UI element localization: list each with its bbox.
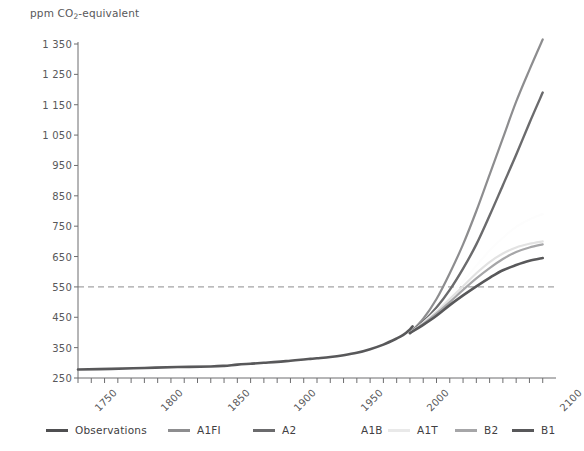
- legend-item-a1fi[interactable]: A1FI: [168, 424, 221, 436]
- legend-label: A1FI: [197, 424, 221, 436]
- legend-swatch-icon: [332, 429, 354, 432]
- legend-label: B2: [484, 424, 498, 436]
- legend-label: A1B: [361, 424, 383, 436]
- legend-label: Observations: [75, 424, 147, 436]
- legend-swatch-icon: [512, 429, 534, 432]
- legend-item-a1b[interactable]: A1B: [332, 424, 383, 436]
- legend-label: B1: [541, 424, 555, 436]
- chart-legend: ObservationsA1FIA2A1BA1TB2B1: [0, 418, 567, 442]
- legend-swatch-icon: [46, 429, 68, 432]
- legend-swatch-icon: [388, 429, 410, 432]
- legend-label: A1T: [417, 424, 438, 436]
- series-line-a1fi: [410, 39, 543, 333]
- series-line-observations: [78, 326, 413, 369]
- series-line-b1: [410, 258, 543, 333]
- legend-item-b2[interactable]: B2: [455, 424, 498, 436]
- legend-swatch-icon: [253, 429, 275, 432]
- legend-item-a2[interactable]: A2: [253, 424, 296, 436]
- legend-item-a1t[interactable]: A1T: [388, 424, 438, 436]
- legend-label: A2: [282, 424, 296, 436]
- legend-swatch-icon: [455, 429, 477, 432]
- legend-swatch-icon: [168, 429, 190, 432]
- legend-item-observations[interactable]: Observations: [46, 424, 147, 436]
- legend-item-b1[interactable]: B1: [512, 424, 555, 436]
